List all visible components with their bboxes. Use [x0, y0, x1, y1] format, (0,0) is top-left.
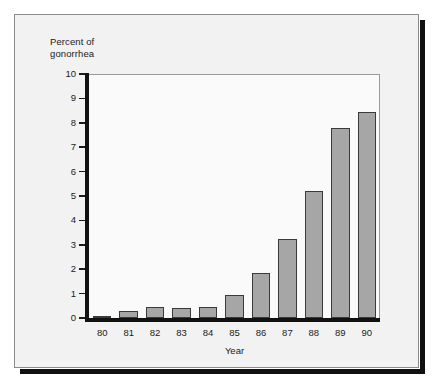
y-tick-label: 8: [54, 118, 76, 128]
y-tick-mark: [79, 122, 85, 124]
y-tick-label: 5: [54, 191, 76, 201]
y-axis-title: Percent ofgonorrhea: [50, 36, 94, 59]
y-tick-label: 4: [54, 215, 76, 225]
y-axis-title-line-1: Percent of: [50, 36, 94, 47]
x-axis-title: Year: [89, 345, 380, 356]
figure-shadow-right: [420, 20, 425, 374]
y-tick-mark: [79, 317, 85, 319]
figure-shadow-bottom: [20, 369, 425, 374]
x-tick-label: 81: [116, 327, 142, 338]
bar: [358, 112, 377, 318]
y-tick-label: 7: [54, 142, 76, 152]
y-tick-mark: [79, 244, 85, 246]
y-tick-label: 9: [54, 93, 76, 103]
x-tick-label: 88: [301, 327, 327, 338]
y-axis-title-line-2: gonorrhea: [50, 48, 94, 59]
bar: [199, 307, 218, 318]
bar: [225, 295, 244, 318]
y-tick-label: 3: [54, 240, 76, 250]
bar: [172, 308, 191, 318]
y-tick-label: 1: [54, 289, 76, 299]
x-tick-label: 83: [169, 327, 195, 338]
y-tick-mark: [79, 268, 85, 270]
bar: [119, 311, 138, 318]
y-tick-label: 10: [54, 69, 76, 79]
bar: [331, 128, 350, 318]
bar: [146, 307, 165, 318]
y-axis-line: [85, 73, 89, 321]
x-tick-label: 86: [248, 327, 274, 338]
bar: [93, 316, 112, 318]
y-tick-mark: [79, 171, 85, 173]
x-tick-label: 87: [274, 327, 300, 338]
bar: [278, 239, 297, 318]
bar: [305, 191, 324, 318]
x-axis-line: [85, 318, 380, 322]
y-tick-label: 2: [54, 264, 76, 274]
x-tick-label: 84: [195, 327, 221, 338]
x-tick-label: 89: [327, 327, 353, 338]
y-tick-mark: [79, 146, 85, 148]
y-tick-label: 6: [54, 167, 76, 177]
x-tick-label: 85: [222, 327, 248, 338]
y-tick-mark: [79, 195, 85, 197]
y-tick-mark: [79, 73, 85, 75]
x-tick-label: 90: [354, 327, 380, 338]
bar: [252, 273, 271, 318]
y-tick-mark: [79, 220, 85, 222]
y-tick-mark: [79, 98, 85, 100]
x-tick-label: 80: [89, 327, 115, 338]
x-tick-label: 82: [142, 327, 168, 338]
y-tick-mark: [79, 293, 85, 295]
y-tick-label: 0: [54, 313, 76, 323]
